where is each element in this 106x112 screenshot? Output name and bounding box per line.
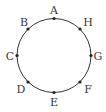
point-g: [89, 54, 92, 57]
point-label-e: E: [50, 96, 58, 109]
point-h: [78, 27, 81, 30]
point-f: [78, 80, 81, 83]
point-label-c: C: [6, 50, 14, 63]
point-label-a: A: [49, 4, 59, 17]
point-e: [52, 91, 55, 94]
point-c: [15, 54, 18, 57]
point-label-d: D: [17, 83, 26, 96]
point-label-g: G: [94, 50, 103, 63]
point-label-b: B: [20, 16, 28, 29]
circle-diagram: AHGFEDCB: [0, 0, 106, 112]
point-d: [26, 80, 29, 83]
point-label-f: F: [84, 83, 92, 96]
point-label-h: H: [83, 16, 93, 29]
point-a: [52, 17, 55, 20]
